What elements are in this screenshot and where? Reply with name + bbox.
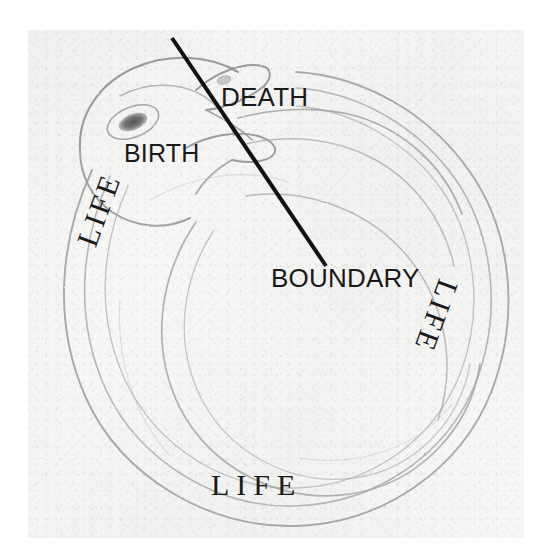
label-birth: BIRTH xyxy=(124,141,200,166)
figure-canvas: DEATH BIRTH BOUNDARY LIFE LIFE LIFE xyxy=(0,0,551,558)
label-life-bottom: LIFE xyxy=(211,470,302,500)
label-boundary: BOUNDARY xyxy=(271,265,420,291)
label-death: DEATH xyxy=(221,84,308,110)
